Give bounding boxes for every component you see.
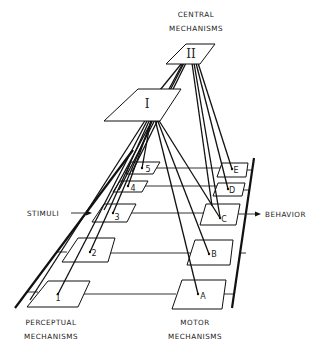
motor-node-D-label: D <box>229 186 235 195</box>
stimuli-arrow-head-icon <box>86 211 92 216</box>
central-perceptual-motor-diagram: I II 1 2 3 4 5 A B C D E STIMULI BEHAVIO… <box>0 0 323 353</box>
perceptual-node-5-label: 5 <box>145 165 150 174</box>
motor-label-line1: MOTOR <box>180 318 209 327</box>
motor-node-B-label: B <box>211 250 217 259</box>
perceptual-panels <box>27 162 160 307</box>
central-node-I-label: I <box>145 97 150 111</box>
motor-node-C-label: C <box>221 215 227 224</box>
behavior-label: BEHAVIOR <box>265 210 306 219</box>
motor-rail <box>232 158 254 308</box>
perceptual-node-2-label: 2 <box>91 249 96 258</box>
perceptual-label-line2: MECHANISMS <box>24 332 78 341</box>
central-label-line2: MECHANISMS <box>169 24 223 33</box>
perceptual-node-1-label: 1 <box>55 294 60 303</box>
central-label-line1: CENTRAL <box>178 10 214 19</box>
motor-node-E-label: E <box>233 166 238 175</box>
perceptual-label-line1: PERCEPTUAL <box>26 318 77 327</box>
perceptual-node-4-label: 4 <box>130 184 135 193</box>
perceptual-node-3-label: 3 <box>114 213 119 222</box>
motor-node-A-label: A <box>200 292 206 301</box>
central-node-II-label: II <box>186 47 196 61</box>
perceptual-panel-2 <box>62 238 115 262</box>
motor-panel-B <box>187 240 233 265</box>
link-I-A <box>155 119 198 294</box>
central-panel-I <box>104 89 181 121</box>
motor-label-line2: MECHANISMS <box>168 332 222 341</box>
behavior-arrow-head-icon <box>255 212 261 217</box>
stimuli-label: STIMULI <box>27 209 59 218</box>
